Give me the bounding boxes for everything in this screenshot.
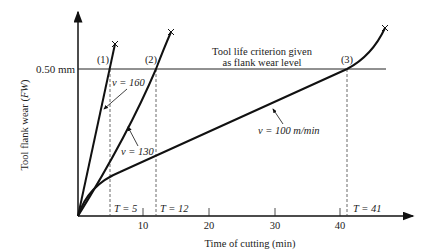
curve-label-3: (3) bbox=[341, 54, 354, 66]
speed-label-v100: v = 100 m/min bbox=[258, 125, 320, 136]
criterion-text-line1: Tool life criterion given bbox=[212, 46, 313, 57]
tool-life-label-t12: T = 12 bbox=[160, 203, 189, 214]
x-tick-label-20: 20 bbox=[204, 220, 215, 231]
curve-label-1: (1) bbox=[97, 54, 110, 66]
curve-label-2: (2) bbox=[145, 54, 158, 66]
x-tick-label-40: 40 bbox=[335, 220, 346, 231]
tool-life-label-t41: T = 41 bbox=[353, 203, 382, 214]
criterion-text-line2: as flank wear level bbox=[222, 57, 301, 68]
level-label: 0.50 mm bbox=[36, 63, 76, 75]
tool-wear-diagram: 0.50 mm Tool life criterion given as fla… bbox=[0, 0, 430, 252]
leader-arrow-v100 bbox=[273, 109, 283, 124]
speed-label-v160: v = 160 bbox=[112, 77, 145, 88]
curve-1-v160 bbox=[78, 44, 115, 216]
x-tick-label-30: 30 bbox=[270, 220, 281, 231]
speed-label-v130: v = 130 bbox=[121, 146, 154, 157]
x-axis-title: Time of cutting (min) bbox=[205, 238, 296, 250]
leader-arrow-v130 bbox=[128, 127, 138, 146]
y-axis-title: Tool flank wear (FW) bbox=[19, 79, 31, 171]
leader-arrow-v160 bbox=[104, 89, 127, 109]
x-tick-label-10: 10 bbox=[138, 220, 149, 231]
tool-life-label-t5: T = 5 bbox=[114, 203, 137, 214]
